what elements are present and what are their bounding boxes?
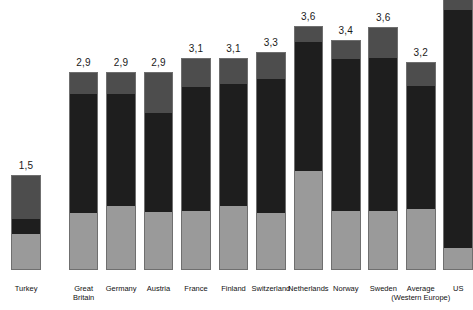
bar-segment-top (107, 73, 135, 94)
category-label-line1: US (453, 284, 463, 293)
bar-segment-top (145, 73, 173, 113)
bar-segment-middle (70, 94, 98, 213)
bar-category-label-turkey: Turkey (15, 284, 38, 293)
bar-segment-bottom (332, 211, 360, 270)
bar-segment-middle (257, 79, 285, 213)
bar-stack[interactable] (331, 40, 361, 270)
bar-group-average-western-europe[interactable]: 3,2Average(Western Europe) (406, 0, 436, 310)
bar-segment-top (70, 73, 98, 94)
bar-value-label: 3,3 (264, 37, 279, 48)
bar-group-austria[interactable]: 2,9Austria (144, 0, 174, 310)
bar-category-label-us: US (453, 284, 463, 293)
bar-segment-bottom (12, 234, 40, 270)
bar-stack[interactable] (181, 58, 211, 270)
bar-segment-middle (220, 84, 248, 206)
bar-value-label: 3,4 (339, 25, 354, 36)
bar-value-label: 1,5 (19, 160, 34, 171)
category-label-line1: Great (74, 284, 93, 293)
bar-stack[interactable] (69, 72, 99, 270)
bar-group-finland[interactable]: 3,1Finland (219, 0, 249, 310)
category-label-line1: Turkey (15, 284, 38, 293)
bar-group-netherlands[interactable]: 3,6Netherlands (294, 0, 324, 310)
category-label-line2: Britain (73, 293, 94, 302)
bar-segment-bottom (145, 212, 173, 270)
bar-category-label-norway: Norway (333, 284, 358, 293)
category-label-line2: (Western Europe) (391, 293, 450, 302)
category-label-line1: Germany (106, 284, 137, 293)
bar-stack[interactable] (294, 26, 324, 270)
bar-stack[interactable] (11, 175, 41, 270)
bar-segment-middle (332, 59, 360, 211)
bar-segment-bottom (257, 213, 285, 270)
category-label-line1: Switzerland (252, 284, 291, 293)
bar-value-label: 3,6 (376, 12, 391, 23)
bar-stack[interactable] (406, 62, 436, 270)
bar-segment-bottom (107, 206, 135, 270)
bar-category-label-netherlands: Netherlands (288, 284, 328, 293)
bar-segment-middle (107, 94, 135, 206)
bar-segment-middle (444, 10, 472, 248)
bar-category-label-switzerland: Switzerland (252, 284, 291, 293)
bar-stack[interactable] (106, 72, 136, 270)
bar-category-label-france: France (184, 284, 207, 293)
bar-stack[interactable] (368, 27, 398, 270)
bar-group-france[interactable]: 3,1France (181, 0, 211, 310)
bar-value-label: 3,2 (413, 47, 428, 58)
bar-value-label: 3,1 (226, 43, 241, 54)
bar-group-switzerland[interactable]: 3,3Switzerland (256, 0, 286, 310)
bar-group-germany[interactable]: 2,9Germany (106, 0, 136, 310)
category-label-line1: Austria (147, 284, 170, 293)
bar-category-label-germany: Germany (106, 284, 137, 293)
bar-group-norway[interactable]: 3,4Norway (331, 0, 361, 310)
bar-segment-top (369, 28, 397, 58)
bar-value-label: 2,9 (76, 57, 91, 68)
bar-value-label: 2,9 (151, 57, 166, 68)
bar-segment-bottom (182, 211, 210, 270)
bar-segment-bottom (220, 206, 248, 270)
bar-group-great-britain[interactable]: 2,9GreatBritain (69, 0, 99, 310)
bar-segment-bottom (70, 213, 98, 270)
bar-segment-top (407, 63, 435, 86)
bar-segment-middle (182, 87, 210, 211)
bar-segment-top (332, 41, 360, 59)
bar-stack[interactable] (219, 58, 249, 270)
bar-segment-middle (407, 86, 435, 209)
bar-stack[interactable] (144, 72, 174, 270)
category-label-line1: Netherlands (288, 284, 328, 293)
bar-segment-bottom (369, 211, 397, 270)
bar-group-turkey[interactable]: 1,5Turkey (11, 0, 41, 310)
bar-stack[interactable] (256, 52, 286, 270)
bar-segment-bottom (407, 209, 435, 270)
stacked-bar-chart: 1,5Turkey2,9GreatBritain2,9Germany2,9Aus… (0, 0, 473, 310)
bar-segment-top (295, 27, 323, 42)
bar-segment-top (220, 59, 248, 84)
bar-segment-top (444, 0, 472, 10)
category-label-line1: Finland (221, 284, 246, 293)
bar-value-label: 3,6 (301, 11, 316, 22)
bar-segment-bottom (295, 171, 323, 270)
bar-segment-middle (295, 42, 323, 171)
bar-value-label: 2,9 (114, 57, 129, 68)
bar-group-sweden[interactable]: 3,6Sweden (368, 0, 398, 310)
bar-segment-middle (369, 58, 397, 211)
bar-stack[interactable] (443, 0, 473, 270)
category-label-line1: France (184, 284, 207, 293)
category-label-line1: Norway (333, 284, 358, 293)
category-label-line1: Average (407, 284, 435, 293)
bar-group-us[interactable]: US (443, 0, 473, 310)
bar-segment-bottom (444, 248, 472, 270)
bar-category-label-finland: Finland (221, 284, 246, 293)
bar-category-label-great-britain: GreatBritain (73, 284, 94, 302)
bar-value-label: 3,1 (189, 43, 204, 54)
bar-segment-middle (12, 219, 40, 234)
bar-category-label-average-western-europe: Average(Western Europe) (391, 284, 450, 302)
bar-category-label-austria: Austria (147, 284, 170, 293)
bar-segment-top (257, 53, 285, 79)
bar-segment-middle (145, 113, 173, 212)
bar-segment-top (182, 59, 210, 87)
bar-segment-top (12, 176, 40, 219)
